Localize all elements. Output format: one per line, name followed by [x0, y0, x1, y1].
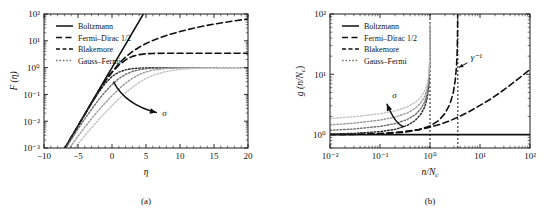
xticklabel: 10⁰ [424, 151, 437, 161]
legend-label: Gauss–Fermi [78, 57, 121, 66]
xticklabel: 0 [110, 151, 115, 161]
plot-frame-panel-a [44, 14, 248, 148]
curve-gauss-fermi-sigma3 [64, 68, 248, 156]
yaxis-title-panel-b: g (n/Nc) [295, 66, 307, 96]
yticklabel: 10² [28, 9, 40, 19]
yticklabel: 10¹ [28, 36, 40, 46]
panel-b: 10⁻²10⁻¹10⁰10¹10²10⁰10¹10²n/Ncg (n/Nc)(b… [295, 9, 536, 206]
gamma-pointer-head [458, 64, 464, 69]
xticklabel: −5 [73, 151, 83, 161]
legend-label: Fermi–Dirac 1/2 [78, 34, 131, 43]
panel-label-panel-a: (a) [141, 196, 151, 206]
xticklabel: 10² [524, 151, 536, 161]
gamma-inverse-annotation: γ⁻¹ [471, 52, 483, 62]
yticklabel: 10⁻³ [23, 143, 40, 153]
legend-label: Blakemore [78, 45, 114, 54]
yticklabel: 10⁻² [23, 117, 40, 127]
sigma-annotation: σ [392, 90, 397, 100]
curve-gauss-fermi-sigma2 [64, 68, 248, 151]
yticklabel: 10² [314, 9, 326, 19]
xticklabel: 10⁻¹ [372, 151, 389, 161]
yticklabel: 10⁻¹ [23, 90, 40, 100]
yticklabel: 10⁰ [27, 63, 40, 73]
panel-label-panel-b: (b) [425, 196, 436, 206]
legend-label: Boltzmann [364, 22, 399, 31]
xticklabel: 20 [244, 151, 254, 161]
curves-panel-b [330, 15, 530, 134]
xticklabel: 10¹ [474, 151, 486, 161]
xticklabel: 10⁻² [322, 151, 339, 161]
yticklabel: 10⁰ [313, 130, 326, 140]
xticklabel: 10 [176, 151, 186, 161]
panel-a: −10−50510152010⁻³10⁻²10⁻¹10⁰10¹10²ηF (η)… [9, 9, 253, 206]
xticklabel: 15 [210, 151, 220, 161]
xaxis-title-panel-b: n/Nc [422, 167, 440, 179]
figure-svg: −10−50510152010⁻³10⁻²10⁻¹10⁰10¹10²ηF (η)… [0, 0, 553, 210]
yaxis-title-panel-a: F (η) [9, 71, 20, 91]
legend-label: Boltzmann [78, 22, 113, 31]
yticklabel: 10¹ [314, 70, 326, 80]
figure-container: −10−50510152010⁻³10⁻²10⁻¹10⁰10¹10²ηF (η)… [0, 0, 553, 210]
xticklabel: 5 [144, 151, 149, 161]
sigma-arrow-head [384, 103, 392, 112]
legend-label: Fermi–Dirac 1/2 [364, 34, 417, 43]
legend-label: Blakemore [364, 45, 400, 54]
sigma-arrow-curve [113, 82, 157, 113]
legend-label: Gauss–Fermi [364, 57, 407, 66]
xaxis-title-panel-a: η [144, 167, 149, 177]
sigma-annotation: σ [162, 108, 167, 118]
